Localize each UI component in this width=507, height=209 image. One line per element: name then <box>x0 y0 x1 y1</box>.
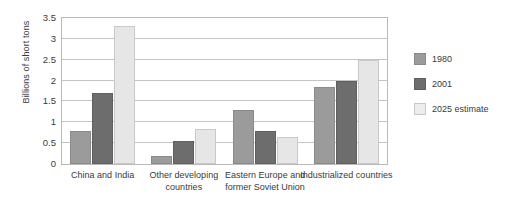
legend-swatch-icon <box>414 103 426 115</box>
bars-layer <box>62 18 387 164</box>
bar <box>114 26 135 164</box>
legend-item: 2001 <box>414 73 506 94</box>
legend-label: 2025 estimate <box>432 104 489 114</box>
bar <box>336 81 357 164</box>
y-axis-tick-label: 2 <box>30 76 56 86</box>
x-axis-category-label: China and India <box>56 170 149 182</box>
y-axis-tick-label: 0 <box>30 159 56 169</box>
x-axis-category-label: Industrialized countries <box>300 170 393 182</box>
bar <box>173 141 194 164</box>
legend-item: 2025 estimate <box>414 98 506 119</box>
y-axis-tick-label: 3 <box>30 34 56 44</box>
bar <box>255 131 276 164</box>
legend-item: 1980 <box>414 48 506 69</box>
bar-chart: Billions of short tons 00.511.522.533.5 … <box>0 0 507 209</box>
bar-group <box>314 18 379 164</box>
y-axis-tick-label: 2.5 <box>30 55 56 65</box>
bar <box>195 129 216 164</box>
bar <box>92 93 113 164</box>
y-axis-tick-label: 1.5 <box>30 96 56 106</box>
bar-group <box>151 18 216 164</box>
legend-swatch-icon <box>414 78 426 90</box>
legend-swatch-icon <box>414 53 426 65</box>
chart-legend: 198020012025 estimate <box>414 48 506 123</box>
legend-label: 1980 <box>432 54 452 64</box>
y-axis-tick-label: 1 <box>30 117 56 127</box>
y-axis-tick-label: 0.5 <box>30 138 56 148</box>
bar <box>233 110 254 164</box>
x-axis-category-label: Eastern Europe and former Soviet Union <box>219 170 312 193</box>
y-axis-tick-label: 3.5 <box>30 13 56 23</box>
x-axis-category-labels: China and IndiaOther developing countrie… <box>62 170 387 204</box>
bar <box>70 131 91 164</box>
legend-label: 2001 <box>432 79 452 89</box>
bar <box>151 156 172 164</box>
bar <box>358 60 379 164</box>
bar <box>314 87 335 164</box>
bar-group <box>70 18 135 164</box>
bar <box>277 137 298 164</box>
x-axis-category-label: Other developing countries <box>137 170 230 193</box>
bar-group <box>233 18 298 164</box>
